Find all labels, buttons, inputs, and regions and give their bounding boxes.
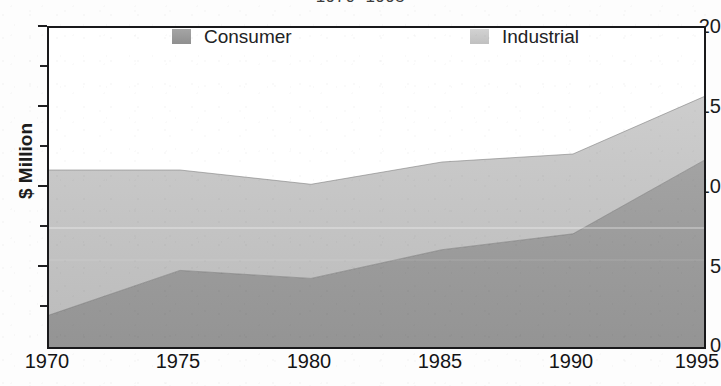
y-axis-title: $ Million: [15, 91, 37, 231]
area-chart-figure: 1970–1995 $ Million 20 15 10 5 0: [0, 0, 721, 386]
y-tick-major-20: [38, 25, 47, 27]
y-tick-minor-7-5: [40, 225, 47, 227]
legend-swatch-industrial: [470, 29, 489, 44]
y-tick-minor-12-5: [40, 145, 47, 147]
y-tick-minor-17-5: [40, 65, 47, 67]
legend-swatch-consumer: [172, 29, 191, 44]
legend-item-consumer: Consumer: [172, 27, 292, 46]
y-tick-minor-2-5: [40, 305, 47, 307]
plot-area: [47, 26, 706, 349]
y-tick-major-5: [38, 265, 47, 267]
x-tick-label-1985: 1985: [400, 351, 480, 371]
legend-label-consumer: Consumer: [204, 27, 292, 46]
x-tick-label-1995: 1995: [657, 351, 721, 371]
y-tick-major-15: [38, 105, 47, 107]
x-tick-label-1990: 1990: [531, 351, 611, 371]
stacked-area-svg: [49, 28, 704, 347]
legend-item-industrial: Industrial: [470, 27, 579, 46]
y-tick-major-10: [38, 185, 47, 187]
x-tick-label-1980: 1980: [269, 351, 349, 371]
x-tick-label-1975: 1975: [138, 351, 218, 371]
chart-title: 1970–1995: [0, 0, 721, 7]
legend-label-industrial: Industrial: [502, 27, 579, 46]
x-tick-label-1970: 1970: [7, 351, 87, 371]
